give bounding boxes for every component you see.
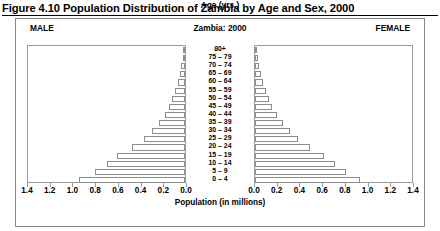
female-plot-panel [254, 45, 413, 183]
bar-male [159, 120, 185, 126]
bar-female [255, 71, 261, 77]
bar-female [255, 112, 277, 118]
bar-male [183, 47, 185, 53]
bar-female [255, 169, 346, 175]
age-group-label: 5 – 9 [186, 167, 254, 175]
bar-male [175, 88, 185, 94]
age-group-label: 65 – 69 [186, 69, 254, 77]
age-group-label: 40 – 44 [186, 110, 254, 118]
bar-male [95, 169, 185, 175]
figure-root: Figure 4.10 Population Distribution of Z… [0, 0, 440, 231]
bar-female [255, 88, 266, 94]
bar-female [255, 96, 269, 102]
bar-female [255, 136, 298, 142]
bar-male [180, 71, 185, 77]
bar-male [144, 136, 185, 142]
bar-female [255, 47, 257, 53]
age-group-label: 50 – 54 [186, 94, 254, 102]
bar-male [172, 96, 185, 102]
age-group-label: 55 – 59 [186, 86, 254, 94]
age-group-labels: 80+75 – 7970 – 7465 – 6960 – 6455 – 5950… [186, 45, 254, 183]
age-group-label: 35 – 39 [186, 118, 254, 126]
age-group-label: 25 – 29 [186, 134, 254, 142]
bar-male [178, 79, 185, 85]
age-group-label: 0 – 4 [186, 175, 254, 183]
legend-female-label: FEMALE [376, 23, 410, 33]
age-group-label: 60 – 64 [186, 77, 254, 85]
bar-male [165, 112, 185, 118]
axis-tick-label: 1.4 [398, 186, 428, 195]
age-group-label: 20 – 24 [186, 142, 254, 150]
chart-title: Zambia: 2000 [0, 23, 440, 33]
bar-male [169, 104, 185, 110]
age-group-label: 80+ [186, 45, 254, 53]
caption-divider [2, 15, 438, 16]
bar-female [255, 144, 310, 150]
bar-male [132, 144, 185, 150]
figure-caption: Figure 4.10 Population Distribution of Z… [2, 1, 438, 16]
age-group-label: 10 – 14 [186, 159, 254, 167]
age-group-label: 15 – 19 [186, 151, 254, 159]
axis-tick-label: 0.0 [171, 186, 201, 195]
bar-male [152, 128, 185, 134]
bar-male [107, 161, 185, 167]
bar-male [181, 63, 185, 69]
age-group-label: 70 – 74 [186, 61, 254, 69]
bar-female [255, 104, 272, 110]
bar-female [255, 63, 259, 69]
bar-male [117, 153, 185, 159]
x-axis-title: Population (in millions) [0, 198, 440, 207]
bar-female [255, 120, 283, 126]
bar-female [255, 153, 324, 159]
bar-female [255, 79, 263, 85]
bar-male [183, 55, 185, 61]
age-group-label: 45 – 49 [186, 102, 254, 110]
male-plot-panel [27, 45, 186, 183]
age-group-label: 75 – 79 [186, 53, 254, 61]
age-group-label: 30 – 34 [186, 126, 254, 134]
bar-female [255, 55, 258, 61]
bar-female [255, 161, 335, 167]
bar-female [255, 128, 290, 134]
